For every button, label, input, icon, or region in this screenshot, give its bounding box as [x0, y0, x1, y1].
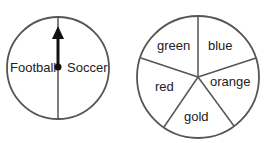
sport-spinner: Football Soccer [7, 17, 109, 119]
section-label-green: green [157, 38, 190, 53]
section-label-red: red [155, 79, 174, 94]
section-label-orange: orange [210, 74, 250, 89]
section-label-soccer: Soccer [67, 60, 108, 75]
section-label-blue: blue [208, 38, 233, 53]
color-spinner: green blue orange gold red [137, 16, 259, 138]
spinners-diagram: Football Soccer green blue orange gold r… [0, 0, 279, 143]
section-label-gold: gold [184, 109, 209, 124]
arrow-head-icon [52, 26, 64, 39]
section-label-football: Football [10, 60, 56, 75]
divider-line [141, 58, 198, 77]
